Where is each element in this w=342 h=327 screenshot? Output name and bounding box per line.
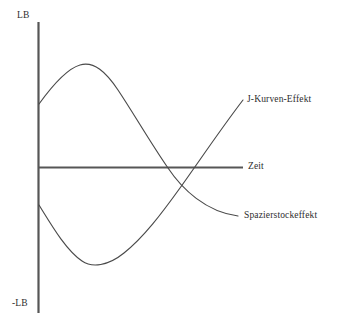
curves-group bbox=[39, 64, 243, 265]
axes-group bbox=[38, 22, 243, 313]
diagram-container: LB -LB J-Kurven-Effekt Zeit Spazierstock… bbox=[0, 0, 342, 327]
x-axis-label: Zeit bbox=[248, 162, 264, 172]
spazierstockeffekt-label: Spazierstockeffekt bbox=[244, 211, 317, 221]
j-kurven-effekt-curve bbox=[39, 100, 243, 265]
y-axis-bottom-label: -LB bbox=[12, 299, 28, 309]
diagram-canvas bbox=[0, 0, 342, 327]
spazierstockeffekt-curve bbox=[39, 64, 238, 216]
y-axis-top-label: LB bbox=[17, 11, 29, 21]
j-kurven-effekt-label: J-Kurven-Effekt bbox=[247, 95, 311, 105]
